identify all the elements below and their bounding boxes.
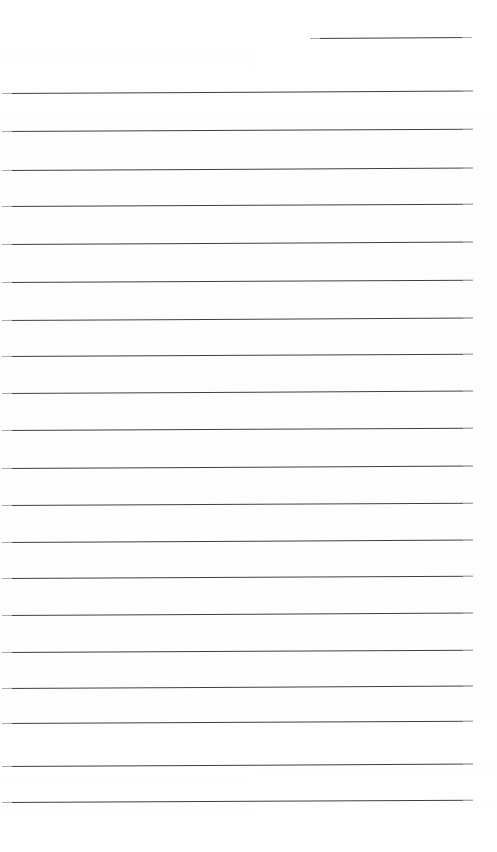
paper-background bbox=[0, 0, 497, 852]
note-page bbox=[0, 0, 497, 852]
